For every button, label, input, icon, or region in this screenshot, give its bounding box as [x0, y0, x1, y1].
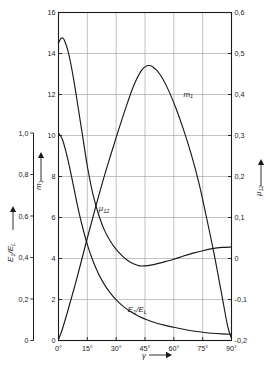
axis-tick-label: 12	[48, 90, 56, 99]
curve-label: E1/EL	[128, 305, 147, 315]
axis-tick-label: 0,8	[19, 170, 29, 179]
axis-tick-label: 0,1	[235, 213, 245, 222]
axis-tick-label: 0	[235, 254, 239, 263]
chart-figure: 0°15°30°45°60°75°90°γ0246810121416m100,2…	[0, 0, 266, 365]
axis-tick-label: 75°	[197, 344, 208, 353]
left-outer-axis: 00,20,40,60,81,0E1/EL	[6, 129, 34, 346]
curve-label-subscript: 12	[103, 208, 110, 214]
axis-tick-label: 1,0	[19, 129, 29, 138]
left-inner-axis: 0246810121416m1	[34, 8, 62, 345]
chart-canvas: 0°15°30°45°60°75°90°γ0246810121416m100,2…	[0, 0, 266, 365]
axis-tick-label: 30°	[111, 344, 122, 353]
axis-tick-label: 0,4	[19, 253, 29, 262]
left-inner-axis-title: m1	[34, 180, 44, 190]
curve-label: m1	[183, 90, 193, 100]
right-axis: -0,2-0,100,10,20,30,40,50,6μ12	[228, 8, 264, 345]
left-outer-axis-title-subscript-2: L	[10, 243, 16, 246]
axis-tick-label: 0,2	[235, 172, 245, 181]
axis-tick-label: 90°	[226, 344, 237, 353]
axis-tick-label: 0	[25, 336, 29, 345]
curve-label: μ12	[98, 204, 111, 214]
axis-tick-label: 0°	[55, 344, 62, 353]
axis-tick-label: 6	[52, 213, 56, 222]
axis-tick-label: 60°	[168, 344, 179, 353]
curve-labels: m1μ12E1/EL	[98, 90, 193, 316]
axis-tick-label: -0,1	[235, 295, 247, 304]
axis-tick-label: 4	[52, 254, 56, 263]
right-axis-title: μ12	[254, 184, 264, 197]
left-outer-axis-title: E1/EL	[6, 243, 16, 262]
axis-tick-label: 2	[52, 295, 56, 304]
axis-tick-label: 0,2	[19, 295, 29, 304]
curve-label-subscript-2: L	[144, 309, 147, 315]
axis-tick-label: 0	[52, 336, 56, 345]
axis-tick-label: 15°	[82, 344, 93, 353]
grid-lines	[59, 13, 232, 341]
axis-tick-label: 14	[48, 49, 56, 58]
right-axis-arrow-head	[258, 159, 264, 165]
axis-tick-label: 0,5	[235, 49, 245, 58]
axis-tick-label: 0,6	[19, 212, 29, 221]
axis-tick-label: 16	[48, 8, 56, 17]
axis-tick-label: 8	[52, 172, 56, 181]
left-inner-axis-arrow-head	[38, 152, 44, 158]
left-outer-axis-arrow-head	[10, 206, 16, 212]
axis-tick-label: -0,2	[235, 336, 247, 345]
x-axis: 0°15°30°45°60°75°90°	[55, 337, 237, 353]
axis-tick-label: 0,4	[235, 90, 245, 99]
curve-label-subscript: 1	[190, 93, 193, 99]
axis-tick-label: 0,6	[235, 8, 245, 17]
axis-tick-label: 10	[48, 131, 56, 140]
axis-tick-label: 0,3	[235, 131, 245, 140]
